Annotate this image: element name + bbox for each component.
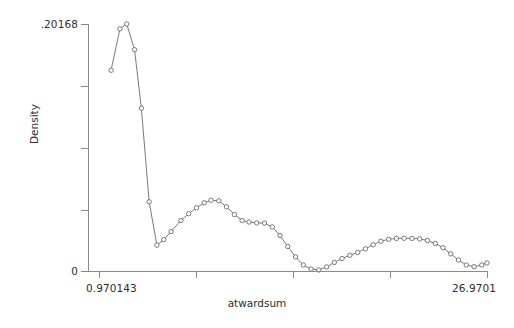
x-axis-title: atwardsum bbox=[0, 297, 514, 309]
data-point bbox=[179, 218, 183, 222]
density-line bbox=[111, 24, 487, 270]
data-point bbox=[169, 229, 173, 233]
x-axis-max-label: 26.9701 bbox=[452, 282, 496, 294]
y-tick-2 bbox=[81, 148, 88, 149]
data-point bbox=[194, 206, 198, 210]
data-point bbox=[324, 265, 328, 269]
x-tick-2 bbox=[293, 271, 294, 278]
data-point bbox=[224, 205, 228, 209]
data-point bbox=[456, 258, 460, 262]
data-point bbox=[441, 246, 445, 250]
data-point bbox=[402, 236, 406, 240]
data-point bbox=[449, 252, 453, 256]
data-point bbox=[340, 256, 344, 260]
data-point bbox=[147, 200, 151, 204]
data-point bbox=[186, 211, 190, 215]
x-tick-1 bbox=[196, 271, 197, 278]
data-point bbox=[472, 265, 476, 269]
data-point bbox=[278, 233, 282, 237]
data-point bbox=[209, 198, 213, 202]
plot-area bbox=[0, 0, 514, 328]
y-axis-min-label: 0 bbox=[0, 265, 78, 277]
data-point bbox=[379, 239, 383, 243]
y-axis-title: Density bbox=[28, 84, 40, 164]
data-point bbox=[301, 263, 305, 267]
data-point bbox=[371, 243, 375, 247]
data-point bbox=[255, 221, 259, 225]
data-point bbox=[240, 218, 244, 222]
x-tick-4 bbox=[487, 271, 488, 278]
y-tick-0 bbox=[81, 271, 88, 272]
data-point bbox=[262, 221, 266, 225]
y-axis-line bbox=[88, 24, 89, 271]
density-markers bbox=[109, 22, 489, 272]
data-point bbox=[355, 250, 359, 254]
data-point bbox=[332, 260, 336, 264]
data-point bbox=[202, 201, 206, 205]
x-tick-3 bbox=[390, 271, 391, 278]
x-tick-0 bbox=[99, 271, 100, 278]
data-point bbox=[485, 261, 489, 265]
y-tick-4 bbox=[81, 24, 88, 25]
data-point bbox=[348, 253, 352, 257]
x-axis-line bbox=[88, 271, 488, 272]
data-point bbox=[363, 247, 367, 251]
data-point bbox=[132, 47, 136, 51]
y-tick-3 bbox=[81, 86, 88, 87]
data-point bbox=[293, 255, 297, 259]
data-point bbox=[386, 237, 390, 241]
data-point bbox=[109, 68, 113, 72]
data-point bbox=[394, 236, 398, 240]
data-point bbox=[247, 220, 251, 224]
data-point bbox=[433, 241, 437, 245]
data-point bbox=[162, 237, 166, 241]
x-axis-min-label: 0.970143 bbox=[86, 282, 137, 294]
data-point bbox=[232, 212, 236, 216]
data-point bbox=[217, 199, 221, 203]
data-point bbox=[464, 263, 468, 267]
data-point bbox=[155, 243, 159, 247]
data-point bbox=[139, 106, 143, 110]
y-tick-1 bbox=[81, 210, 88, 211]
data-point bbox=[480, 263, 484, 267]
y-axis-max-label: .20168 bbox=[0, 18, 78, 30]
data-point bbox=[286, 244, 290, 248]
data-point bbox=[410, 236, 414, 240]
data-point bbox=[125, 22, 129, 26]
data-point bbox=[270, 225, 274, 229]
density-plot-figure: .20168 0 0.970143 26.9701 Density atward… bbox=[0, 0, 514, 328]
data-point bbox=[118, 27, 122, 31]
data-point bbox=[418, 237, 422, 241]
data-point bbox=[425, 238, 429, 242]
density-curve-svg bbox=[0, 0, 514, 328]
